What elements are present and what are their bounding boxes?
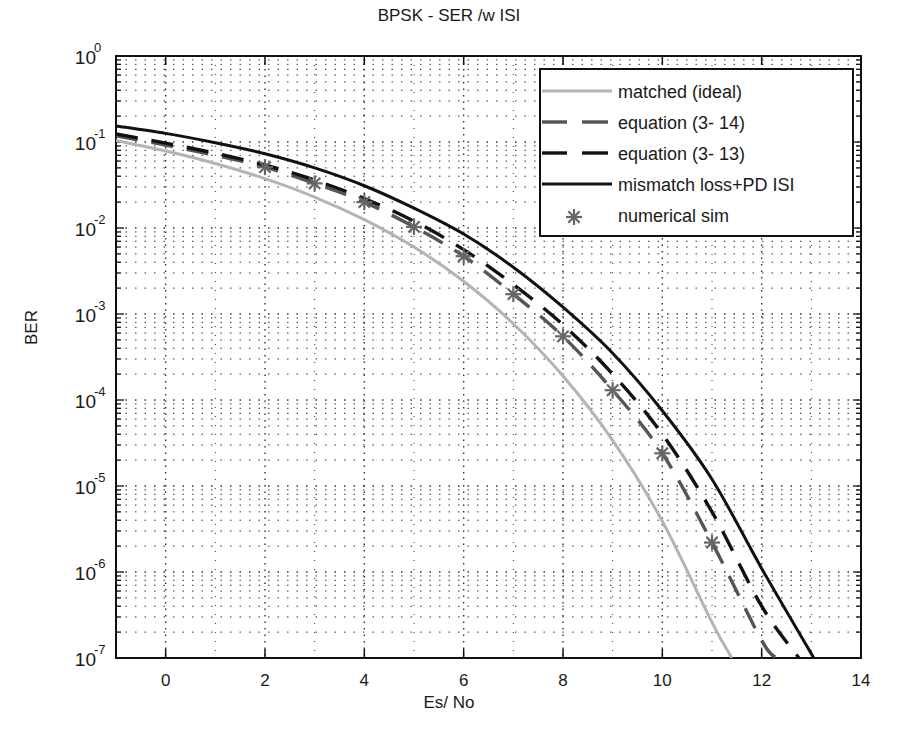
legend-label: equation (3- 13)	[618, 144, 745, 164]
y-axis-ticks: 10010-110-210-310-410-510-610-7	[75, 40, 106, 670]
y-tick-exponent: -3	[94, 298, 106, 313]
y-tick-exponent: -4	[94, 384, 106, 399]
x-tick-label: 2	[260, 671, 269, 690]
y-tick-label: 10	[75, 649, 96, 670]
x-tick-label: 12	[752, 671, 771, 690]
x-tick-label: 4	[360, 671, 369, 690]
x-axis-label: Es/ No	[0, 693, 898, 713]
ber-chart: 0246810121410010-110-210-310-410-510-610…	[0, 0, 898, 750]
y-tick-exponent: 0	[94, 40, 101, 55]
y-tick-exponent: -7	[94, 642, 106, 657]
y-tick-label: 10	[75, 391, 96, 412]
x-tick-label: 10	[653, 671, 672, 690]
y-tick-label: 10	[75, 477, 96, 498]
x-tick-label: 14	[852, 671, 871, 690]
y-tick-exponent: -1	[94, 126, 106, 141]
x-tick-label: 6	[459, 671, 468, 690]
legend: matched (ideal)equation (3- 14)equation …	[540, 69, 853, 236]
y-tick-label: 10	[75, 219, 96, 240]
x-tick-label: 0	[161, 671, 170, 690]
y-tick-label: 10	[75, 47, 96, 68]
y-axis-label: BER	[22, 310, 42, 345]
y-tick-exponent: -6	[94, 556, 106, 571]
y-tick-label: 10	[75, 305, 96, 326]
y-tick-exponent: -2	[94, 212, 106, 227]
y-tick-label: 10	[75, 563, 96, 584]
x-tick-label: 8	[558, 671, 567, 690]
legend-label: numerical sim	[618, 206, 729, 226]
legend-label: equation (3- 14)	[618, 113, 745, 133]
y-tick-label: 10	[75, 133, 96, 154]
y-tick-exponent: -5	[94, 470, 106, 485]
legend-label: matched (ideal)	[618, 82, 742, 102]
legend-label: mismatch loss+PD ISI	[618, 175, 795, 195]
